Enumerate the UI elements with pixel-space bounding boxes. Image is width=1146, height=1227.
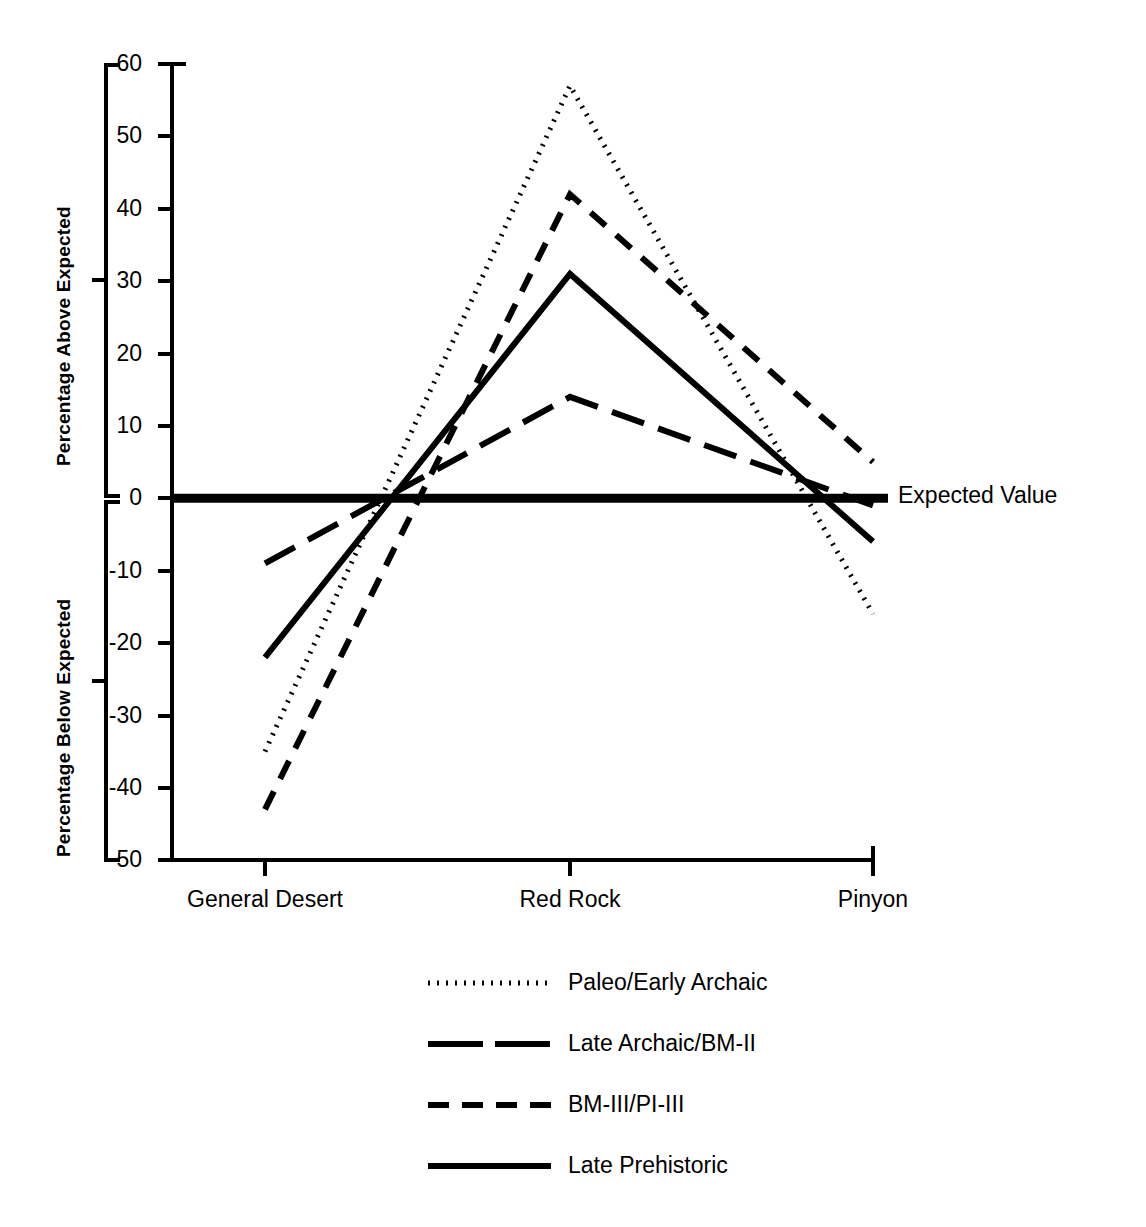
legend-line-samples: [428, 983, 551, 1166]
y-tick-label-20: 20: [80, 342, 142, 365]
y-tick-label-10: 10: [80, 414, 142, 437]
series-line-late-prehistoric: [265, 274, 873, 658]
y-tick-label-0: 0: [80, 486, 142, 509]
y-tick-label-60: 60: [80, 52, 142, 75]
y-tick-label-neg30: -30: [80, 704, 142, 727]
y-tick-label-50: 50: [80, 124, 142, 147]
legend-label-late-archaic-bm-ii: Late Archaic/BM-II: [568, 1032, 756, 1055]
y-axis-ticks: [158, 64, 172, 860]
y-tick-label-neg50: -50: [80, 848, 142, 871]
legend-label-bm-iii-pi-iii: BM-III/PI-III: [568, 1093, 684, 1116]
legend-label-paleo-early-archaic: Paleo/Early Archaic: [568, 971, 767, 994]
y-tick-label-neg10: -10: [80, 559, 142, 582]
y-tick-label-neg20: -20: [80, 631, 142, 654]
legend-label-late-prehistoric: Late Prehistoric: [568, 1154, 728, 1177]
axis-spines: [172, 64, 873, 860]
chart-figure: Percentage Above Expected Percentage Bel…: [0, 0, 1146, 1227]
expected-value-annotation: Expected Value: [898, 482, 1057, 509]
x-tick-label-pinyon: Pinyon: [783, 888, 963, 911]
y-tick-label-30: 30: [80, 269, 142, 292]
y-tick-label-neg40: -40: [80, 776, 142, 799]
y-axis-title-below: Percentage Below Expected: [53, 599, 75, 857]
below-expected-bracket: [92, 502, 120, 860]
x-tick-label-red-rock: Red Rock: [470, 888, 670, 911]
series-line-paleo-early-archaic: [265, 86, 873, 752]
x-tick-label-general-desert: General Desert: [145, 888, 385, 911]
y-tick-label-40: 40: [80, 197, 142, 220]
y-axis-title-above: Percentage Above Expected: [53, 206, 75, 466]
x-axis-ticks: [265, 860, 873, 876]
